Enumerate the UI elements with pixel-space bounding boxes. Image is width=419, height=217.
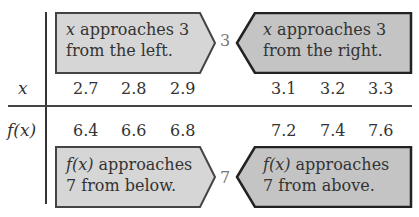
fx-value: 7.2	[271, 121, 296, 140]
callout-x-from-right: x approaches 3 from the right.	[235, 12, 413, 74]
callout-line1: approaches 3	[272, 20, 386, 39]
table-horizontal-divider	[8, 105, 412, 107]
fx-value: 6.4	[73, 121, 98, 140]
callout-fx-from-below: f(x) approaches 7 from below.	[55, 146, 217, 208]
callout-line1: approaches 3	[75, 20, 189, 39]
callout-line2: 7 from below.	[66, 176, 176, 195]
callout-line2: 7 from above.	[263, 176, 375, 195]
fx-row-label: f(x)	[7, 120, 36, 140]
callout-line2: from the right.	[263, 41, 383, 60]
callout-line1: approaches	[290, 155, 389, 174]
x-value: 3.3	[368, 79, 393, 98]
x-row-label: x	[18, 78, 28, 98]
callout-var: x	[263, 20, 272, 39]
callout-var: f(x)	[66, 155, 93, 174]
callout-line2: from the left.	[66, 41, 173, 60]
x-value: 3.2	[320, 79, 345, 98]
table-vertical-divider	[45, 12, 47, 204]
x-value: 2.8	[121, 79, 146, 98]
fx-value: 7.4	[320, 121, 345, 140]
callout-var: x	[66, 20, 75, 39]
fx-limit-value: 7	[220, 168, 230, 187]
x-value: 2.7	[73, 79, 98, 98]
callout-x-from-left: x approaches 3 from the left.	[55, 12, 217, 74]
callout-line1: approaches	[93, 155, 192, 174]
x-limit-point: 3	[220, 31, 230, 50]
callout-var: f(x)	[263, 155, 290, 174]
fx-value: 6.6	[121, 121, 146, 140]
x-value: 2.9	[170, 79, 195, 98]
fx-value: 7.6	[368, 121, 393, 140]
callout-fx-from-above: f(x) approaches 7 from above.	[235, 146, 413, 208]
x-value: 3.1	[271, 79, 296, 98]
fx-value: 6.8	[170, 121, 195, 140]
